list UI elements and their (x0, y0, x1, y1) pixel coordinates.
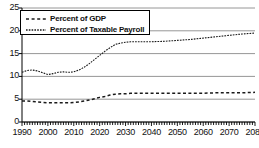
y-axis-label-20: 20 (9, 26, 19, 35)
y-axis-label-5: 5 (14, 94, 19, 103)
legend-item-percent-of-gdp: Percent of GDP (25, 14, 149, 24)
x-axis-label-2030: 2030 (112, 127, 140, 137)
legend-label-percent-of-gdp: Percent of GDP (50, 15, 106, 23)
chart-container: 0510152025 19902000201020202030204020502… (0, 0, 259, 148)
x-axis-label-2060: 2060 (189, 127, 217, 137)
x-axis-label-2000: 2000 (34, 127, 62, 137)
dashed-coarse-key-icon (25, 15, 47, 23)
x-axis-tick-labels: 1990200020102020203020402050206020702080 (0, 127, 259, 141)
y-axis-tick-labels: 0510152025 (0, 0, 19, 148)
y-axis-label-15: 15 (9, 49, 19, 58)
dashed-fine-key-icon (25, 26, 47, 34)
x-minor-ticks (22, 122, 255, 126)
x-axis-label-1990: 1990 (8, 127, 36, 137)
series-percent-of-gdp-line (22, 92, 255, 102)
x-axis-label-2040: 2040 (137, 127, 165, 137)
y-axis-label-0: 0 (14, 117, 19, 126)
legend-label-percent-of-taxable-payroll: Percent of Taxable Payroll (50, 26, 144, 34)
y-axis-label-25: 25 (9, 3, 19, 12)
x-axis-label-2070: 2070 (215, 127, 243, 137)
legend-item-percent-of-taxable-payroll: Percent of Taxable Payroll (25, 25, 149, 35)
chart-legend: Percent of GDP Percent of Taxable Payrol… (20, 10, 150, 35)
y-axis-label-10: 10 (9, 71, 19, 80)
x-axis-label-2020: 2020 (86, 127, 114, 137)
x-axis-label-2080: 2080 (241, 127, 259, 137)
x-axis-label-2050: 2050 (163, 127, 191, 137)
x-axis-label-2010: 2010 (60, 127, 88, 137)
